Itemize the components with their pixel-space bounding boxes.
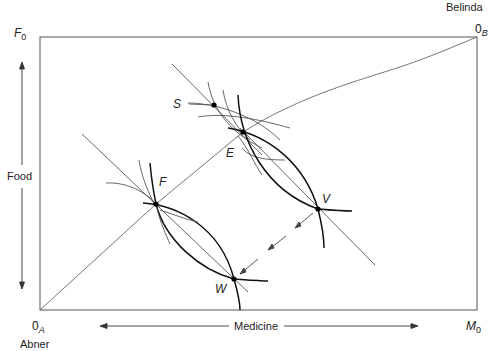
origin-a-label: 0A xyxy=(32,319,45,335)
point-s-dot xyxy=(211,102,216,107)
origin-b-label: 0B xyxy=(475,22,488,38)
indifference-curve-belinda-ev xyxy=(228,128,324,248)
point-v-dot xyxy=(315,206,320,211)
edgeworth-box-frame xyxy=(40,37,477,310)
point-w-label: W xyxy=(215,282,228,296)
food-endowment-label: F0 xyxy=(14,26,26,42)
food-axis-label: Food xyxy=(7,170,32,182)
point-s-leader xyxy=(189,104,212,105)
dashed-arrow-v-to-w xyxy=(240,213,313,274)
contract-curve xyxy=(40,37,477,310)
owner-belinda-label: Belinda xyxy=(446,1,484,13)
point-w-dot xyxy=(231,276,236,281)
owner-abner-label: Abner xyxy=(20,338,50,350)
point-e-label: E xyxy=(226,146,235,160)
point-e-dot xyxy=(240,129,245,134)
medicine-axis-label: Medicine xyxy=(234,320,278,332)
indifference-curve-f-thin-b xyxy=(139,160,156,207)
point-v-label: V xyxy=(322,192,331,206)
point-s-label: S xyxy=(173,97,181,111)
point-f-dot xyxy=(153,201,158,206)
medicine-endowment-label: M0 xyxy=(466,319,481,335)
price-line-ev xyxy=(240,128,375,265)
edgeworth-box-diagram: S E F V W Belinda 0B F0 0A Abner M0 Food… xyxy=(0,0,493,351)
price-line-fw xyxy=(82,134,248,292)
point-f-label: F xyxy=(159,175,167,189)
indifference-curve-v-ext xyxy=(318,209,352,211)
indifference-curve-abner-fw xyxy=(150,163,268,281)
indifference-curve-s-b xyxy=(198,115,290,128)
